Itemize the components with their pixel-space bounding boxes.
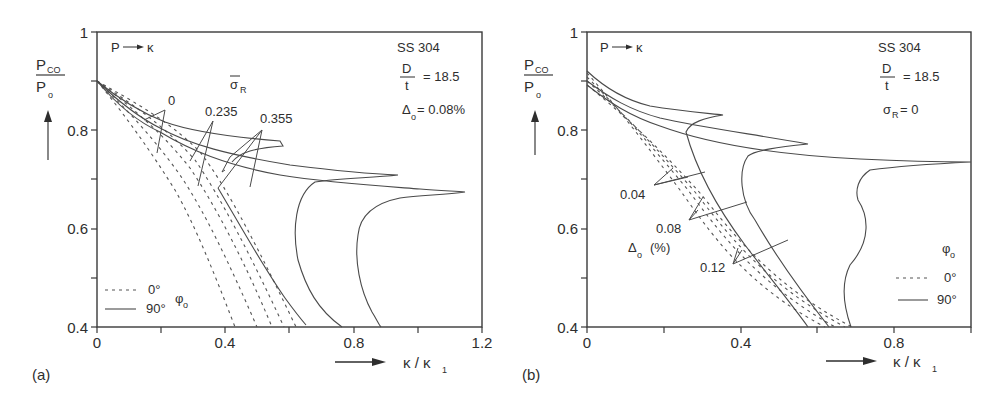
svg-text:= 0: = 0	[900, 102, 918, 117]
svg-text:D: D	[882, 61, 891, 76]
panel-a-xtick-0: 0	[93, 334, 101, 351]
svg-text:P: P	[600, 40, 609, 55]
panel-a-sigma-label: σ R	[230, 76, 247, 95]
svg-text:κ: κ	[636, 40, 643, 55]
panel-a-xtick-1.2: 1.2	[472, 334, 493, 351]
svg-text:= 0.08%: = 0.08%	[417, 102, 466, 117]
arrow-icon	[626, 45, 633, 50]
figure-canvas: 1 0.8 0.6 0.4 0 0.4 0.8 1.2 P CO P o κ /…	[0, 0, 1001, 393]
svg-text:(%): (%)	[650, 240, 670, 255]
panel-b-param-0.12: 0.12	[700, 260, 725, 275]
svg-text:o: o	[950, 250, 955, 260]
y-arrow-icon	[44, 110, 52, 122]
panel-b-ytick-0.8: 0.8	[557, 122, 578, 139]
svg-text:R: R	[892, 110, 899, 120]
svg-text:P: P	[524, 56, 534, 73]
panel-a-param-0.235: 0.235	[205, 104, 238, 119]
panel-b-xtick-0: 0	[583, 334, 591, 351]
panel-a-loading-path: P κ	[111, 40, 154, 55]
svg-text:CO: CO	[47, 65, 61, 75]
panel-a-y-ticks	[91, 32, 97, 327]
arrow-icon	[137, 45, 144, 50]
panel-b-x-ticks	[587, 327, 971, 333]
svg-text:P: P	[36, 56, 46, 73]
svg-text:1: 1	[442, 365, 447, 375]
panel-b-param-0.08: 0.08	[656, 221, 681, 236]
panel-b-param-0.04: 0.04	[620, 187, 645, 202]
svg-text:κ: κ	[147, 40, 154, 55]
panel-b-ytick-1: 1	[570, 24, 578, 41]
legend-label-0deg: 0°	[148, 282, 160, 297]
panel-a-legend: 0° 90° φ o	[105, 282, 188, 316]
panel-b-loading-path: P κ	[600, 40, 643, 55]
panel-b-leader-lines	[654, 168, 788, 264]
svg-text:D: D	[402, 61, 411, 76]
panel-b-x-axis-label: κ / κ 1	[826, 353, 937, 374]
svg-text:= 18.5: = 18.5	[903, 69, 940, 84]
svg-text:o: o	[637, 250, 642, 260]
svg-text:SS 304: SS 304	[878, 40, 921, 55]
panel-b-parameters: SS 304 D t = 18.5 σ R = 0	[878, 40, 940, 120]
svg-text:CO: CO	[535, 65, 549, 75]
svg-text:P: P	[111, 40, 120, 55]
panel-a-parameters: SS 304 D t = 18.5 Δ o = 0.08%	[397, 40, 466, 122]
svg-text:t: t	[885, 78, 889, 93]
svg-text:o: o	[536, 90, 541, 100]
x-arrow-icon	[372, 358, 386, 366]
panel-a-y-axis-label: P CO P o	[36, 56, 65, 160]
panel-a-x-ticks	[97, 327, 482, 333]
x-arrow-icon	[863, 357, 877, 365]
figure: 1 0.8 0.6 0.4 0 0.4 0.8 1.2 P CO P o κ /…	[0, 0, 1001, 393]
svg-text:o: o	[183, 300, 188, 310]
legend-label-90deg: 90°	[146, 301, 166, 316]
svg-text:σ: σ	[883, 102, 891, 117]
legend-label-90deg: 90°	[937, 292, 957, 307]
svg-text:P: P	[524, 78, 534, 95]
svg-text:t: t	[405, 78, 409, 93]
panel-a-x-axis-label: κ / κ 1	[335, 354, 447, 375]
svg-text:P: P	[36, 78, 46, 95]
panel-a: 1 0.8 0.6 0.4 0 0.4 0.8 1.2 P CO P o κ /…	[32, 24, 492, 383]
svg-text:Δ: Δ	[628, 240, 637, 255]
panel-a-leader-lines	[144, 110, 262, 188]
svg-text:σ: σ	[230, 77, 238, 92]
panel-a-ytick-0.8: 0.8	[67, 122, 88, 139]
panel-a-label: (a)	[32, 366, 50, 383]
panel-b: 1 0.8 0.6 0.4 0 0.4 0.8 P CO P o κ / κ 1…	[522, 24, 971, 383]
panel-a-ytick-0.6: 0.6	[67, 220, 88, 237]
y-arrow-icon	[531, 110, 539, 122]
panel-b-xtick-0.4: 0.4	[731, 334, 752, 351]
svg-text:κ / κ: κ / κ	[893, 353, 921, 370]
panel-a-ytick-1: 1	[80, 24, 88, 41]
panel-b-y-ticks	[581, 32, 587, 327]
svg-text:1: 1	[932, 364, 937, 374]
svg-text:κ / κ: κ / κ	[403, 354, 431, 371]
panel-b-ytick-0.6: 0.6	[557, 220, 578, 237]
svg-text:= 18.5: = 18.5	[423, 69, 460, 84]
svg-text:o: o	[411, 112, 416, 122]
panel-b-ytick-0.4: 0.4	[557, 319, 578, 336]
panel-a-xtick-0.8: 0.8	[344, 334, 365, 351]
panel-a-xtick-0.4: 0.4	[215, 334, 236, 351]
panel-b-xtick-0.8: 0.8	[884, 334, 905, 351]
panel-b-delta-label: Δ o (%)	[628, 240, 670, 260]
svg-text:R: R	[240, 85, 247, 95]
legend-label-0deg: 0°	[944, 270, 956, 285]
svg-text:o: o	[48, 90, 53, 100]
svg-text:Δ: Δ	[402, 102, 411, 117]
panel-b-legend: φ o 0° 90°	[896, 241, 957, 307]
panel-a-ytick-0.4: 0.4	[67, 319, 88, 336]
panel-b-label: (b)	[522, 366, 540, 383]
svg-text:SS 304: SS 304	[397, 40, 440, 55]
panel-b-y-axis-label: P CO P o	[524, 56, 553, 155]
panel-a-param-0: 0	[168, 93, 175, 108]
panel-a-param-0.355: 0.355	[260, 111, 293, 126]
